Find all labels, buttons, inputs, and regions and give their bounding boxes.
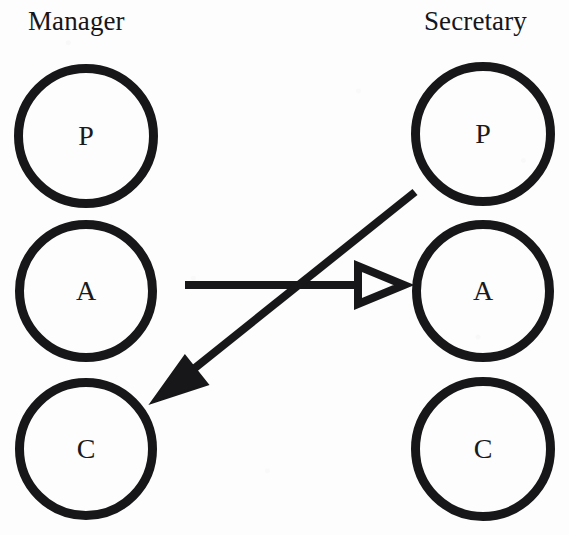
node-label-manager-presentation: P xyxy=(72,122,100,150)
node-label-secretary-abstraction: A xyxy=(469,277,497,305)
node-label-secretary-control: C xyxy=(469,435,497,463)
node-label-manager-abstraction: A xyxy=(72,277,100,305)
node-label-secretary-presentation: P xyxy=(469,120,497,148)
hollow-triangle-arrowhead-icon xyxy=(358,266,404,304)
node-label-manager-control: C xyxy=(72,435,100,463)
diagram-canvas: Manager Secretary P A C P A C xyxy=(0,0,569,535)
